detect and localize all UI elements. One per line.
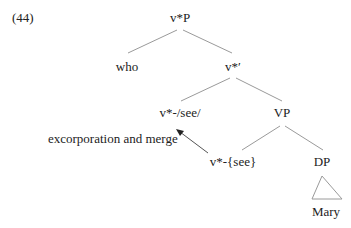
excorporation-arrow [176, 129, 208, 153]
edge-VP-vhead [242, 126, 280, 150]
edge-VP-DP [285, 126, 323, 150]
node-vP: v*P [170, 11, 190, 25]
edge-vbar-head [181, 78, 230, 101]
example-number: (44) [12, 11, 34, 25]
dp-triangle [312, 176, 342, 199]
node-vbar: v*′ [225, 60, 241, 74]
node-v-head-see: v*-/see/ [159, 106, 200, 120]
arrow-label: excorporation and merge [48, 132, 178, 146]
node-DP: DP [314, 155, 331, 169]
edge-vP-who [128, 30, 177, 53]
node-mary: Mary [312, 205, 340, 219]
node-v-see-set: v*-{see} [210, 155, 256, 169]
node-VP: VP [274, 106, 291, 120]
edge-vbar-VP [236, 78, 282, 101]
edge-vP-vbar [183, 30, 232, 53]
node-who: who [116, 60, 138, 74]
